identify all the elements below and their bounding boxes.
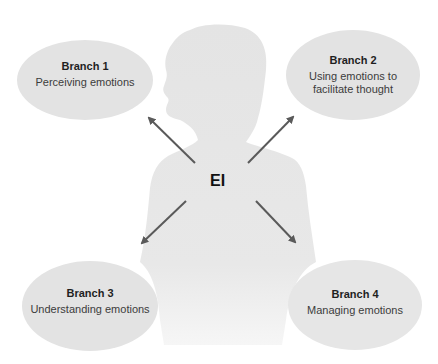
branch-4-title: Branch 4 — [295, 288, 415, 300]
branch-1-node: Branch 1 Perceiving emotions — [25, 60, 145, 89]
branch-4-description: Managing emotions — [295, 304, 415, 317]
branch-3-description: Understanding emotions — [25, 303, 155, 316]
branch-4-node: Branch 4 Managing emotions — [295, 288, 415, 317]
branch-3-title: Branch 3 — [25, 287, 155, 299]
branch-2-node: Branch 2 Using emotions to facilitate th… — [298, 54, 408, 96]
branch-1-description: Perceiving emotions — [25, 76, 145, 89]
branch-2-title: Branch 2 — [298, 54, 408, 66]
ei-center-label: EI — [210, 172, 225, 190]
branch-2-description: Using emotions to facilitate thought — [298, 70, 408, 96]
branch-3-node: Branch 3 Understanding emotions — [25, 287, 155, 316]
branch-1-title: Branch 1 — [25, 60, 145, 72]
ei-diagram: EI Branch 1 Perceiving emotions Branch 2… — [0, 0, 438, 364]
